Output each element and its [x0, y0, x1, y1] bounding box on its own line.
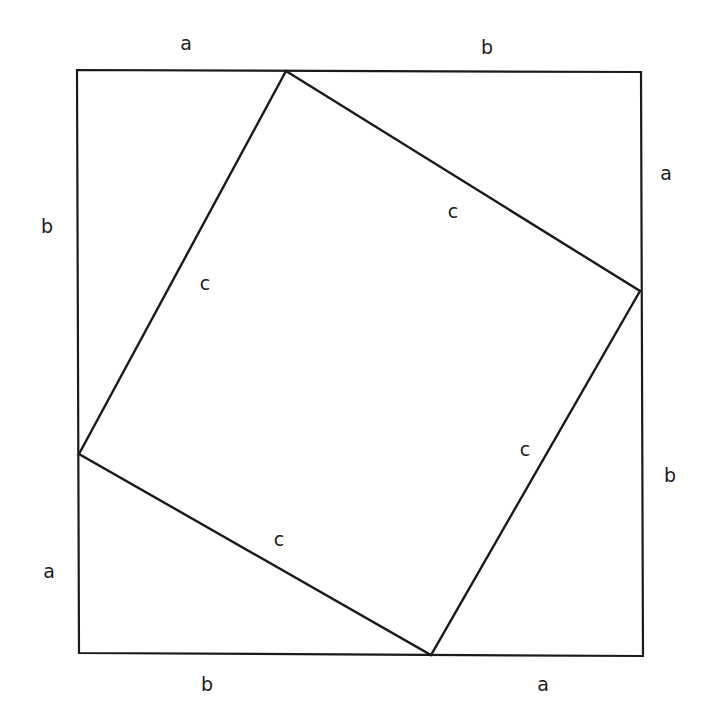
label-c-left: c — [200, 274, 210, 293]
label-top-a: a — [180, 34, 192, 53]
label-bottom-a: a — [537, 675, 549, 694]
label-c-lower: c — [274, 530, 284, 549]
pythagoras-diagram — [0, 0, 709, 727]
label-left-a: a — [43, 562, 55, 581]
label-right-b: b — [664, 466, 676, 485]
inner-tilted-square — [79, 71, 640, 655]
outer-square — [77, 70, 643, 656]
label-left-b: b — [41, 217, 53, 236]
label-top-b: b — [481, 38, 493, 57]
label-bottom-b: b — [201, 675, 213, 694]
label-right-a: a — [660, 164, 672, 183]
label-c-upper-right: c — [448, 202, 458, 221]
label-c-right: c — [520, 440, 530, 459]
